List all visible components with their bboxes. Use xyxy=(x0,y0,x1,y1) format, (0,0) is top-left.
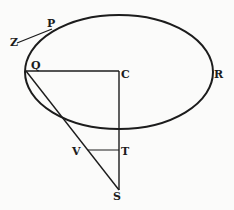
label-r: R xyxy=(214,68,224,81)
label-z: Z xyxy=(10,36,18,49)
label-p: P xyxy=(47,17,55,30)
segment-qs xyxy=(26,71,119,190)
label-s: S xyxy=(113,190,121,203)
label-c: C xyxy=(121,68,130,81)
label-v: V xyxy=(71,145,81,158)
ellipse-diagram: P Z Q C R V T S xyxy=(0,0,234,210)
label-t: T xyxy=(121,145,130,158)
label-q: Q xyxy=(31,59,41,72)
